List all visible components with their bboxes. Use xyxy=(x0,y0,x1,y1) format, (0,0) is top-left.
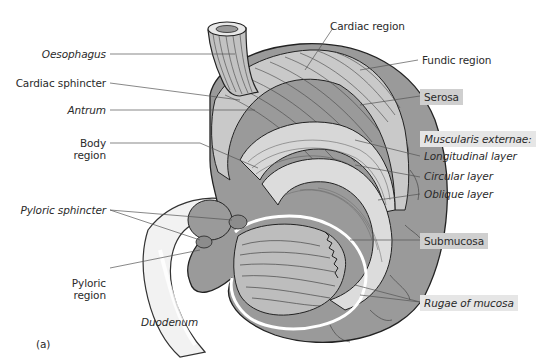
label-submucosa: Submucosa xyxy=(420,233,488,249)
label-muscularis-externae: Muscularis externae: xyxy=(420,131,536,147)
label-oesophagus: Oesophagus xyxy=(20,48,106,60)
label-serosa: Serosa xyxy=(420,89,463,105)
label-pyloric-sphincter: Pyloric sphincter xyxy=(10,204,106,216)
label-antrum: Antrum xyxy=(20,104,106,116)
label-pyloric-region: Pyloric region xyxy=(20,277,106,301)
label-cardiac-region: Cardiac region xyxy=(330,20,405,32)
label-pyloric-region-line2: region xyxy=(20,289,106,301)
stomach-diagram: Oesophagus Cardiac sphincter Antrum Body… xyxy=(0,0,541,364)
label-fundic-region: Fundic region xyxy=(422,54,491,66)
label-circular-layer: Circular layer xyxy=(424,170,493,182)
label-body-region: Body region xyxy=(20,137,106,161)
label-pyloric-region-line1: Pyloric xyxy=(20,277,106,289)
label-body-region-line1: Body xyxy=(20,137,106,149)
label-oblique-layer: Oblique layer xyxy=(424,188,493,200)
label-longitudinal-layer: Longitudinal layer xyxy=(424,150,517,162)
label-rugae-of-mucosa: Rugae of mucosa xyxy=(420,295,518,311)
label-duodenum: Duodenum xyxy=(141,316,198,328)
label-cardiac-sphincter: Cardiac sphincter xyxy=(10,77,106,89)
label-body-region-line2: region xyxy=(20,149,106,161)
panel-label: (a) xyxy=(36,338,50,350)
